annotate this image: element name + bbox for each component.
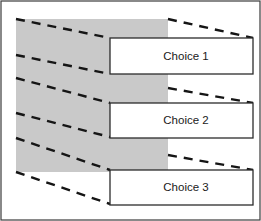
choice-box-2[interactable]: Choice 2 — [110, 103, 253, 138]
choice-box-2-label: Choice 2 — [163, 114, 208, 126]
choice-box-3[interactable]: Choice 3 — [110, 170, 253, 205]
choice-box-3-label: Choice 3 — [163, 181, 208, 193]
diagram-svg: Choice 1Choice 2Choice 3 — [0, 0, 261, 221]
choice-box-1-label: Choice 1 — [163, 50, 208, 62]
choice-box-1[interactable]: Choice 1 — [110, 38, 253, 74]
choice-box-group: Choice 1Choice 2Choice 3 — [110, 38, 253, 205]
diagram-canvas: Choice 1Choice 2Choice 3 — [0, 0, 261, 221]
